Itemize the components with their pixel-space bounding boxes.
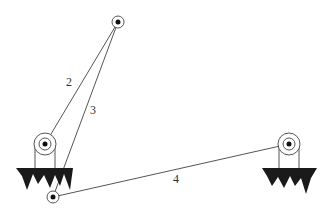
bottom-pin-icon xyxy=(47,191,59,203)
label-member-3: 3 xyxy=(90,103,96,117)
right-ground-hatch-icon xyxy=(262,168,317,194)
label-member-2: 2 xyxy=(66,75,72,89)
right-support xyxy=(262,133,317,194)
top-pin-icon xyxy=(112,16,124,28)
member-4-line xyxy=(53,144,289,197)
member-2-line xyxy=(45,22,118,144)
mechanism-diagram: 2 3 4 xyxy=(0,0,335,213)
left-ground-hatch-icon xyxy=(16,168,73,190)
label-member-4: 4 xyxy=(173,172,179,186)
left-support xyxy=(16,133,73,190)
